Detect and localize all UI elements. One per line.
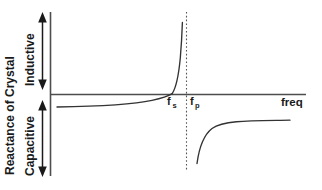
fp-label-subscript: p [195,101,200,110]
crystal-reactance-figure: Reactance of Crystal Inductive Capacitiv… [0,0,322,190]
fp-label-base: f [190,95,194,107]
y-axis-inductive-label: Inductive [23,33,37,86]
reactance-plot-svg: Reactance of Crystal Inductive Capacitiv… [0,0,322,190]
y-axis-capacitive-label: Capacitive [23,116,37,176]
y-axis-main-label: Reactance of Crystal [3,56,17,175]
fs-label-subscript: s [173,101,177,110]
fs-label-base: f [167,95,171,107]
x-axis-freq-label: freq [281,96,303,108]
